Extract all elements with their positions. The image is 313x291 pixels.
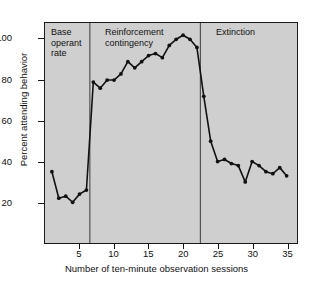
x-tick-label: 10 [102, 248, 126, 259]
data-point [154, 52, 158, 56]
y-tick-label: 20 [0, 197, 12, 208]
data-point [133, 66, 137, 70]
data-point [91, 80, 95, 84]
data-point [230, 162, 234, 166]
data-point [243, 180, 247, 184]
data-point [112, 78, 116, 82]
phase-annotation-extinction: Extinction [216, 27, 255, 38]
data-point [285, 174, 289, 178]
data-point [140, 60, 144, 64]
x-tick-mark [218, 244, 219, 249]
data-point-markers [50, 33, 289, 204]
data-point [85, 188, 89, 192]
data-point [278, 166, 282, 170]
x-tick-label: 20 [171, 248, 195, 259]
data-point [98, 86, 102, 90]
x-tick-mark [148, 244, 149, 249]
data-point [264, 170, 268, 174]
data-point [174, 37, 178, 41]
data-point [271, 172, 275, 176]
data-point [216, 160, 220, 164]
data-point [119, 72, 123, 76]
data-line [52, 35, 287, 202]
data-point [236, 164, 240, 168]
x-tick-label: 5 [67, 248, 91, 259]
series-svg [45, 23, 297, 243]
data-point [105, 78, 109, 82]
y-tick-label: 100 [0, 32, 12, 43]
data-point [57, 196, 61, 200]
data-point [209, 139, 213, 143]
x-tick-mark [253, 244, 254, 249]
data-point [223, 158, 227, 162]
y-tick-label: 40 [0, 156, 12, 167]
y-tick-label: 80 [0, 74, 12, 85]
chart-figure: Percent attending behavior 20406080100 B… [0, 0, 313, 291]
x-tick-mark [114, 244, 115, 249]
plot-area: Base operant rate Reinforcement continge… [44, 22, 298, 244]
x-axis-label: Number of ten-minute observation session… [0, 263, 313, 274]
phase-annotation-treatment: Reinforcement contingency [105, 27, 164, 48]
x-tick-mark [183, 244, 184, 249]
data-point [78, 192, 82, 196]
data-point [195, 46, 199, 50]
data-point [202, 94, 206, 98]
data-point [188, 37, 192, 41]
phase-annotation-baseline: Base operant rate [51, 27, 82, 59]
data-point [71, 200, 75, 204]
data-point [126, 60, 130, 64]
x-tick-label: 30 [241, 248, 265, 259]
data-point [147, 54, 151, 58]
y-tick-label: 60 [0, 115, 12, 126]
data-point [181, 33, 185, 37]
x-tick-label: 25 [206, 248, 230, 259]
phase-divider-lines [90, 23, 200, 243]
data-point [257, 164, 261, 168]
data-point [50, 170, 54, 174]
x-tick-label: 35 [276, 248, 300, 259]
data-point [64, 194, 68, 198]
x-tick-mark [79, 244, 80, 249]
data-point [167, 44, 171, 48]
data-point [160, 56, 164, 60]
x-tick-label: 15 [136, 248, 160, 259]
y-axis-label: Percent attending behavior [18, 30, 29, 190]
x-tick-mark [288, 244, 289, 249]
data-point [250, 160, 254, 164]
